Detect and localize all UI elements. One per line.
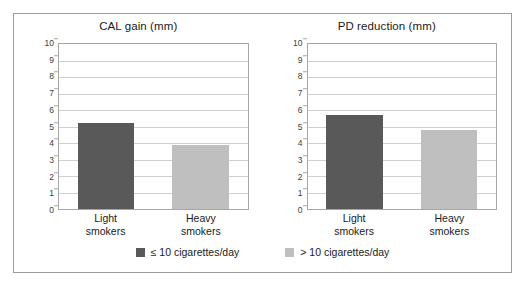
- y-axis-pd-reduction: 109876543210: [279, 43, 303, 210]
- y-tick-label-1: 1: [30, 189, 54, 198]
- x-label-line-1: Heavy: [402, 212, 497, 225]
- x-label-line-2: smokers: [58, 225, 153, 238]
- legend-label-light-smokers: ≤ 10 cigarettes/day: [151, 246, 240, 258]
- y-tick-label-10: 10: [279, 39, 303, 48]
- plot-wrap-pd-reduction: 109876543210: [307, 43, 498, 210]
- bar-heavy-smokers-pd-reduction[interactable]: [421, 130, 478, 209]
- y-tick-label-8: 8: [30, 72, 54, 81]
- x-label-line-2: smokers: [153, 225, 248, 238]
- y-tick-label-3: 3: [279, 156, 303, 165]
- chart-panel-pd-reduction: PD reduction (mm) 109876543210: [263, 14, 512, 229]
- y-axis-cal-gain: 109876543210: [30, 43, 54, 210]
- y-tick-label-6: 6: [30, 106, 54, 115]
- chart-panel-cal-gain: CAL gain (mm) 109876543210 L: [14, 14, 263, 229]
- y-tick-label-1: 1: [279, 189, 303, 198]
- y-tick-label-7: 7: [30, 89, 54, 98]
- y-tick-label-0: 0: [30, 206, 54, 215]
- bar-light-smokers-cal-gain[interactable]: [78, 123, 135, 209]
- x-label-line-2: smokers: [307, 225, 402, 238]
- x-label-heavy-smokers-cal-gain: Heavy smokers: [153, 212, 248, 244]
- bar-light-smokers-pd-reduction[interactable]: [326, 115, 383, 209]
- y-tick-label-2: 2: [30, 172, 54, 181]
- x-axis-pd-reduction: Light smokers Heavy smokers: [307, 212, 498, 244]
- bars-layer-cal-gain: [59, 44, 248, 209]
- legend-swatch-heavy-smokers: [285, 248, 294, 257]
- legend-item-light-smokers[interactable]: ≤ 10 cigarettes/day: [136, 246, 240, 258]
- y-tick-label-8: 8: [279, 72, 303, 81]
- y-tick-label-4: 4: [30, 139, 54, 148]
- y-tick-mark-10: [303, 38, 307, 39]
- chart-legend: ≤ 10 cigarettes/day > 10 cigarettes/day: [14, 246, 511, 258]
- x-label-line-1: Light: [58, 212, 153, 225]
- y-tick-label-7: 7: [279, 89, 303, 98]
- plot-wrap-cal-gain: 109876543210: [58, 43, 249, 210]
- y-tick-label-4: 4: [279, 139, 303, 148]
- y-tick-label-6: 6: [279, 106, 303, 115]
- plot-area-pd-reduction: [307, 43, 498, 210]
- bar-slot-light-smokers-pd-reduction: [308, 44, 402, 209]
- bar-slot-heavy-smokers-pd-reduction: [402, 44, 496, 209]
- chart-title-cal-gain: CAL gain (mm): [14, 20, 263, 32]
- charts-row: CAL gain (mm) 109876543210 L: [14, 14, 511, 229]
- x-label-line-2: smokers: [402, 225, 497, 238]
- y-tick-label-0: 0: [279, 206, 303, 215]
- bar-slot-light-smokers-cal-gain: [59, 44, 153, 209]
- legend-swatch-light-smokers: [136, 248, 145, 257]
- bar-slot-heavy-smokers-cal-gain: [153, 44, 247, 209]
- x-label-light-smokers-cal-gain: Light smokers: [58, 212, 153, 244]
- x-label-heavy-smokers-pd-reduction: Heavy smokers: [402, 212, 497, 244]
- y-tick-mark-10: [54, 38, 58, 39]
- bars-layer-pd-reduction: [308, 44, 497, 209]
- y-tick-label-3: 3: [30, 156, 54, 165]
- chart-title-pd-reduction: PD reduction (mm): [263, 20, 512, 32]
- y-tick-label-10: 10: [30, 39, 54, 48]
- plot-area-cal-gain: [58, 43, 249, 210]
- x-label-line-1: Light: [307, 212, 402, 225]
- y-tick-label-2: 2: [279, 172, 303, 181]
- y-tick-label-9: 9: [30, 55, 54, 64]
- x-label-line-1: Heavy: [153, 212, 248, 225]
- figure-frame: CAL gain (mm) 109876543210 L: [13, 13, 512, 273]
- y-tick-label-5: 5: [279, 122, 303, 131]
- y-tick-label-9: 9: [279, 55, 303, 64]
- legend-item-heavy-smokers[interactable]: > 10 cigarettes/day: [285, 246, 389, 258]
- x-label-light-smokers-pd-reduction: Light smokers: [307, 212, 402, 244]
- bar-heavy-smokers-cal-gain[interactable]: [172, 145, 229, 209]
- legend-label-heavy-smokers: > 10 cigarettes/day: [300, 246, 389, 258]
- x-axis-cal-gain: Light smokers Heavy smokers: [58, 212, 249, 244]
- y-tick-label-5: 5: [30, 122, 54, 131]
